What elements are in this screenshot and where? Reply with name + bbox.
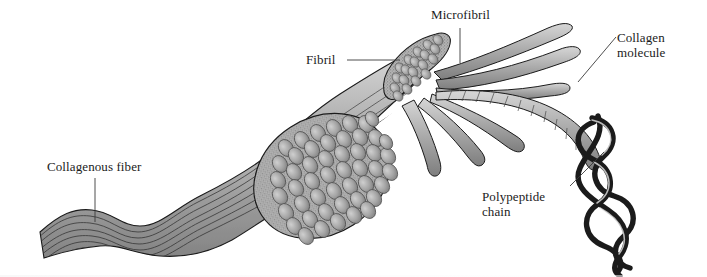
label-collagenous-fiber: Collagenous fiber (47, 160, 141, 175)
label-fibril: Fibril (306, 53, 336, 68)
collagen-structure-diagram (0, 0, 707, 277)
label-microfibril: Microfibril (431, 8, 490, 23)
fibril-cut-ends-group (230, 88, 414, 264)
label-polypeptide-chain: Polypeptide chain (482, 190, 545, 219)
label-collagen-molecule: Collagen molecule (617, 31, 665, 60)
leader-collagen-molecule (578, 37, 616, 82)
